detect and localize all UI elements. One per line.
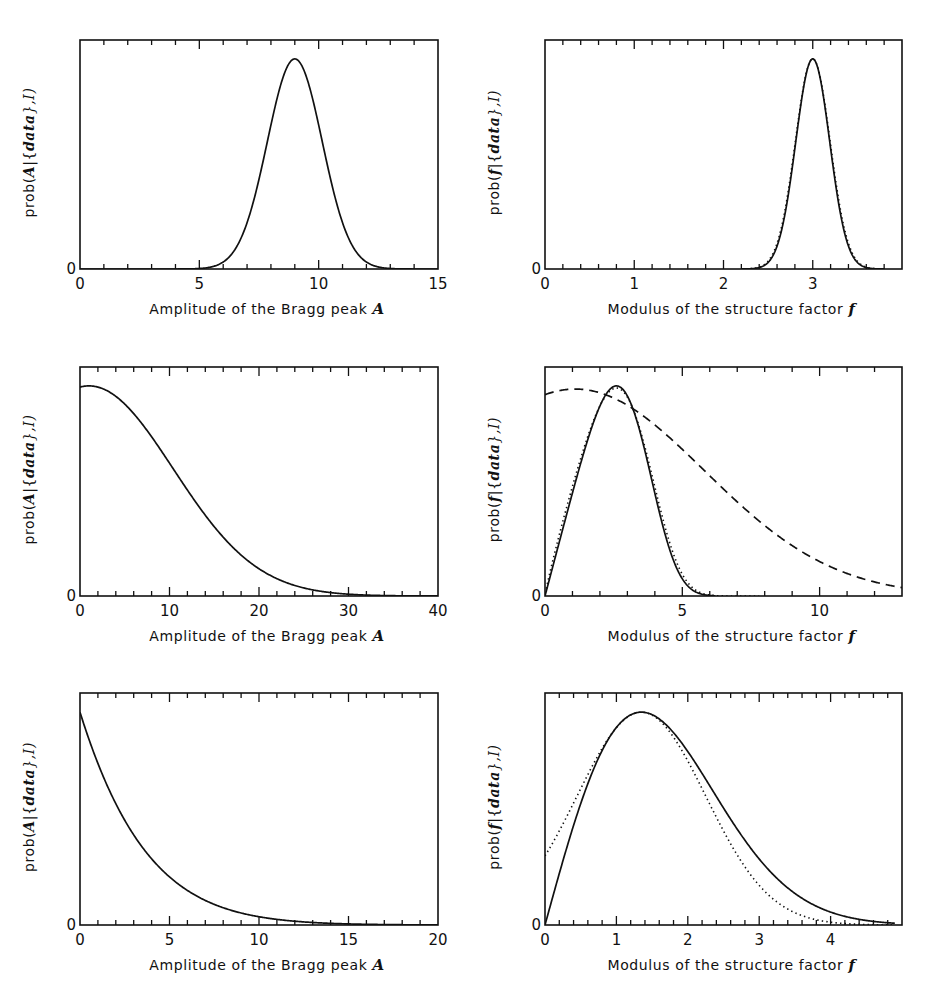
curve-posterior (80, 386, 438, 596)
y-axis-title: prob(f|{data},I) (486, 90, 503, 215)
axes-frame (545, 367, 902, 596)
chart-panel-middle-left: 0102030400Amplitude of the Bragg peak Ap… (21, 367, 448, 645)
x-tick-label: 2 (719, 275, 729, 293)
y-tick-label: 0 (66, 587, 76, 605)
x-tick-label: 20 (428, 931, 447, 949)
x-axis-title: Amplitude of the Bragg peak A (149, 956, 384, 974)
axes-frame (545, 40, 902, 269)
curve-exact (741, 59, 884, 269)
y-tick-label: 0 (531, 587, 541, 605)
y-axis-title: prob(A|{data},I) (21, 414, 38, 544)
chart-panel-bottom-left: 051015200Amplitude of the Bragg peak Apr… (21, 693, 448, 974)
figure-canvas: 0510150Amplitude of the Bragg peak Aprob… (0, 0, 937, 1002)
y-tick-label: 0 (66, 260, 76, 278)
x-tick-label: 30 (339, 602, 358, 620)
curve-exact (545, 712, 895, 925)
axes-frame (80, 367, 438, 596)
x-tick-label: 0 (75, 931, 85, 949)
x-axis-title: Amplitude of the Bragg peak A (149, 627, 384, 645)
x-tick-label: 2 (683, 931, 693, 949)
curve-exact (545, 386, 715, 596)
y-axis-title: prob(A|{data},I) (21, 87, 38, 217)
x-tick-label: 20 (249, 602, 268, 620)
chart-panel-bottom-right: 012340Modulus of the structure factor fp… (486, 693, 902, 974)
chart-panel-top-left: 0510150Amplitude of the Bragg peak Aprob… (21, 40, 448, 318)
y-axis-title: prob(A|{data},I) (21, 742, 38, 872)
axes-frame (80, 40, 438, 269)
x-tick-label: 15 (339, 931, 358, 949)
curve-posterior (80, 712, 438, 925)
chart-panel-top-right: 01230Modulus of the structure factor fpr… (486, 40, 902, 318)
x-tick-label: 1 (612, 931, 622, 949)
x-tick-label: 5 (678, 602, 688, 620)
curve-broad (545, 389, 902, 588)
x-tick-label: 10 (249, 931, 268, 949)
y-tick-label: 0 (531, 260, 541, 278)
x-tick-label: 40 (428, 602, 447, 620)
x-axis-title: Modulus of the structure factor f (608, 627, 858, 645)
y-axis-title: prob(f|{data},I) (486, 417, 503, 542)
axes-frame (80, 693, 438, 925)
x-axis-title: Amplitude of the Bragg peak A (149, 300, 384, 318)
y-axis-title: prob(f|{data},I) (486, 744, 503, 869)
x-tick-label: 15 (428, 275, 447, 293)
y-tick-label: 0 (531, 916, 541, 934)
x-tick-label: 5 (165, 931, 175, 949)
x-tick-label: 1 (629, 275, 639, 293)
x-tick-label: 0 (540, 275, 550, 293)
x-tick-label: 10 (160, 602, 179, 620)
x-tick-label: 0 (75, 275, 85, 293)
x-tick-label: 0 (540, 602, 550, 620)
y-tick-label: 0 (66, 916, 76, 934)
x-tick-label: 3 (754, 931, 764, 949)
x-tick-label: 3 (808, 275, 818, 293)
x-tick-label: 10 (810, 602, 829, 620)
x-tick-label: 5 (195, 275, 205, 293)
x-tick-label: 10 (309, 275, 328, 293)
chart-panel-middle-right: 05100Modulus of the structure factor fpr… (486, 367, 902, 645)
curve-approx (741, 59, 884, 269)
x-tick-label: 4 (826, 931, 836, 949)
x-tick-label: 0 (75, 602, 85, 620)
x-axis-title: Modulus of the structure factor f (608, 300, 858, 318)
curve-approx (545, 712, 895, 925)
x-axis-title: Modulus of the structure factor f (608, 956, 858, 974)
x-tick-label: 0 (540, 931, 550, 949)
curve-posterior (80, 59, 438, 269)
